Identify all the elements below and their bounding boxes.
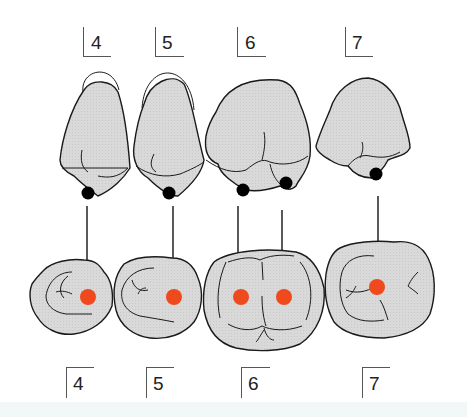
lower-contact-point-4 (80, 289, 96, 305)
upper-contact-point-7 (370, 168, 383, 181)
upper-contact-point-4 (82, 187, 95, 200)
upper-contact-point-6b (280, 177, 293, 190)
upper-tooth-6 (206, 80, 311, 197)
dental-contact-diagram: 4 5 6 7 4 5 6 7 (0, 0, 467, 417)
occlusal-tooth-5 (114, 257, 201, 338)
footer-strip (0, 402, 467, 417)
upper-tooth-7 (316, 78, 410, 181)
occlusal-tooth-4 (30, 259, 113, 334)
upper-contact-point-6a (237, 184, 250, 197)
upper-tooth-4 (60, 72, 130, 199)
lower-contact-point-5 (166, 289, 182, 305)
teeth-illustration (0, 0, 467, 417)
upper-contact-point-5 (163, 187, 176, 200)
occlusal-tooth-7 (325, 241, 434, 338)
lower-contact-point-6a (233, 289, 249, 305)
occlusal-tooth-6 (203, 250, 324, 350)
lower-contact-point-7 (369, 279, 385, 295)
lower-contact-point-6b (276, 289, 292, 305)
upper-tooth-5 (134, 73, 204, 200)
